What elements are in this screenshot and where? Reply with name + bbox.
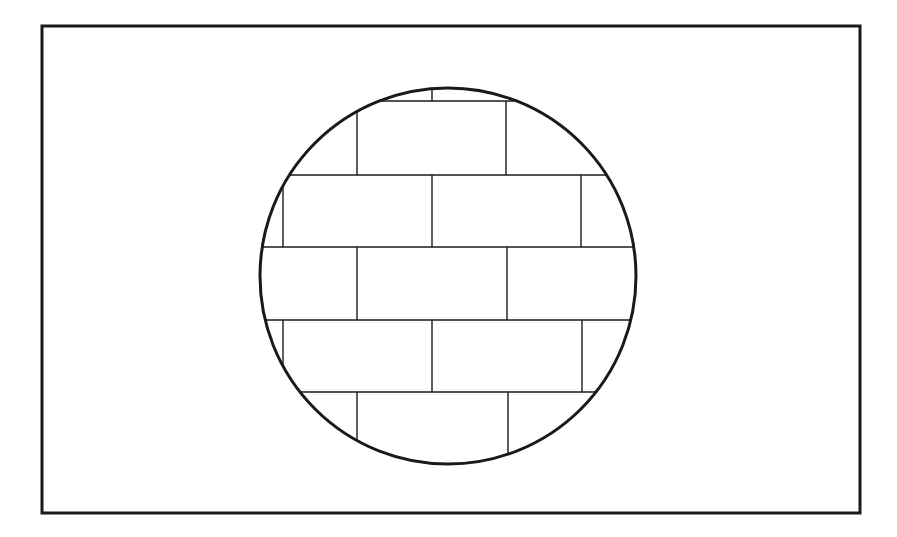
outer-frame bbox=[42, 26, 860, 513]
brick-circle-diagram bbox=[0, 0, 897, 537]
diagram-canvas bbox=[0, 0, 897, 537]
circle-outline bbox=[260, 88, 636, 464]
